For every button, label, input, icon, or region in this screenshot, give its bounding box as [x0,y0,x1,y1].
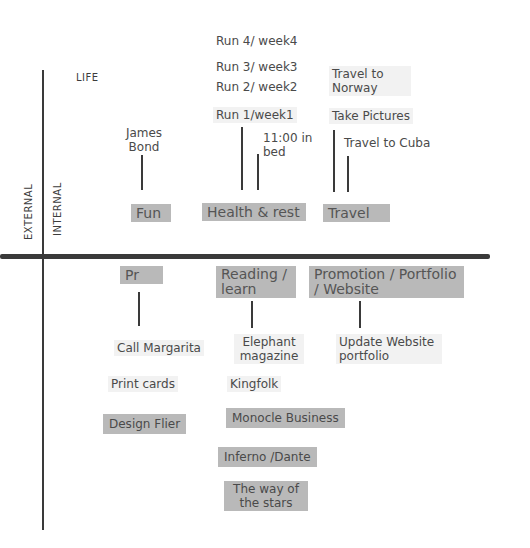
item-take-pictures: Take Pictures [329,108,413,124]
category-reading-learn: Reading / learn [216,266,296,298]
item-way-of-the-stars: The way of the stars [224,481,308,511]
connector-line [333,130,335,192]
horizontal-axis [0,254,490,259]
connector-line [141,155,143,190]
item-elephant-magazine: Elephant magazine [234,334,304,364]
connector-line [138,292,140,326]
connector-line [359,301,361,328]
item-kingfolk: Kingfolk [227,376,281,392]
item-run-2: Run 2/ week2 [216,80,297,94]
category-fun: Fun [131,204,171,222]
vertical-axis [42,70,44,530]
category-health-rest: Health & rest [202,203,306,221]
category-pr: Pr [120,266,163,284]
external-label: EXTERNAL [22,184,36,240]
item-call-margarita: Call Margarita [114,340,204,356]
item-design-flier: Design Flier [103,414,186,434]
item-monocle-business: Monocle Business [226,408,345,428]
connector-line [257,154,259,190]
item-run-1: Run 1/week1 [213,107,297,123]
internal-label: INTERNAL [51,182,65,236]
item-run-4: Run 4/ week4 [216,34,297,48]
item-inferno-dante: Inferno /Dante [218,447,317,467]
item-run-3: Run 3/ week3 [216,60,297,74]
life-label: LIFE [76,71,99,85]
item-travel-norway: Travel to Norway [329,66,411,96]
item-1100-in-bed: 11:00 in bed [263,131,313,159]
item-print-cards: Print cards [108,376,178,392]
connector-line [251,301,253,328]
item-james-bond: James Bond [124,126,164,154]
item-travel-cuba: Travel to Cuba [344,136,430,150]
category-promotion-portfolio-website: Promotion / Portfolio / Website [309,266,464,298]
connector-line [241,127,243,190]
category-travel: Travel [323,204,390,222]
connector-line [347,156,349,192]
item-update-website-portfolio: Update Website portfolio [336,334,442,364]
